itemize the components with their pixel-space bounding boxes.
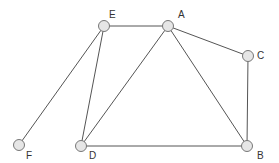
node-label-b: B <box>257 151 264 161</box>
edge-a-b <box>168 26 247 146</box>
node-label-d: D <box>89 151 96 161</box>
node-label-e: E <box>109 10 116 20</box>
node-label-c: C <box>257 51 264 61</box>
node-label-f: F <box>26 151 32 161</box>
node-label-a: A <box>178 10 185 20</box>
node-f <box>14 140 25 151</box>
node-e <box>99 21 110 32</box>
node-c <box>243 51 254 62</box>
edge-e-f <box>19 26 104 145</box>
nodes-group <box>14 21 254 152</box>
edge-e-d <box>81 26 104 146</box>
node-d <box>76 141 87 152</box>
edge-a-d <box>81 26 168 146</box>
node-a <box>163 21 174 32</box>
edges-group <box>19 26 248 146</box>
node-b <box>242 141 253 152</box>
edge-a-c <box>168 26 248 56</box>
edge-c-b <box>247 56 248 146</box>
graph-canvas <box>0 0 279 163</box>
